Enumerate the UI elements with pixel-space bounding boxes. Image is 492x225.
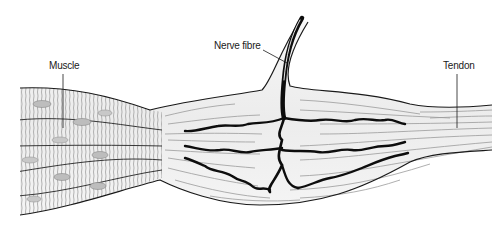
tendon-label: Tendon xyxy=(443,60,475,71)
nerve-fibre-label: Nerve fibre xyxy=(214,40,261,51)
muscle-tendon-diagram xyxy=(0,0,492,225)
muscle-label: Muscle xyxy=(49,60,79,71)
